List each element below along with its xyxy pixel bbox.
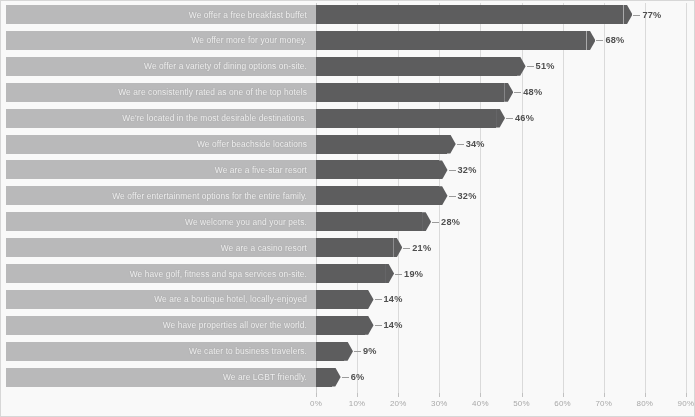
value-bar [316,316,365,335]
value-leader-line [395,274,402,275]
horizontal-bar-chart: 0%10%20%30%40%50%60%70%80%90% We offer a… [0,0,695,417]
value-label: 19% [404,269,423,279]
value-leader-line [342,377,349,378]
category-label-bar: We have golf, fitness and spa services o… [6,264,316,283]
x-tick-mark [645,393,646,397]
bar-arrow-tip [447,135,456,154]
category-label: We offer entertainment options for the e… [112,191,307,201]
category-label: We offer beachside locations [197,139,307,149]
category-label-bar: We offer beachside locations [6,135,316,154]
value-leader-line [633,15,640,16]
x-axis-tick-label: 90% [678,399,695,408]
value-bar [316,368,332,387]
category-label-bar: We are consistently rated as one of the … [6,83,316,102]
value-bar [316,57,517,76]
value-leader-line [506,118,513,119]
category-label: We're located in the most desirable dest… [122,113,307,123]
category-label-bar: We are a casino resort [6,238,316,257]
chart-row: We're located in the most desirable dest… [1,109,695,128]
value-bar [316,31,586,50]
value-bar [316,186,439,205]
category-label: We cater to business travelers. [189,346,307,356]
category-label-bar: We're located in the most desirable dest… [6,109,316,128]
x-axis-tick-label: 0% [310,399,322,408]
value-bar [316,238,393,257]
bar-arrow-tip [517,57,526,76]
chart-row: We are a five-star resort32% [1,160,695,179]
chart-row: We have golf, fitness and spa services o… [1,264,695,283]
value-bar [316,160,439,179]
category-label: We are a casino resort [221,243,307,253]
chart-row: We offer more for your money.68% [1,31,695,50]
x-tick-mark [686,393,687,397]
x-tick-mark [398,393,399,397]
bar-arrow-tip [623,5,632,24]
value-label: 32% [458,165,477,175]
bar-arrow-tip [385,264,394,283]
category-label-bar: We offer a variety of dining options on-… [6,57,316,76]
bar-arrow-tip [439,160,448,179]
category-label-bar: We are a boutique hotel, locally-enjoyed [6,290,316,309]
chart-row: We offer a free breakfast buffet77% [1,5,695,24]
category-label-bar: We have properties all over the world. [6,316,316,335]
chart-row: We have properties all over the world.14… [1,316,695,335]
value-bar [316,135,447,154]
category-label-bar: We offer more for your money. [6,31,316,50]
bar-arrow-tip [344,342,353,361]
value-label: 51% [536,61,555,71]
category-label: We are LGBT friendly. [223,372,307,382]
bar-arrow-tip [422,212,431,231]
bar-arrow-tip [439,186,448,205]
category-label: We have properties all over the world. [163,320,307,330]
x-tick-mark [480,393,481,397]
bar-arrow-tip [365,290,374,309]
category-label: We have golf, fitness and spa services o… [130,269,307,279]
value-label: 14% [384,320,403,330]
bar-arrow-tip [332,368,341,387]
value-bar [316,290,365,309]
category-label: We offer a variety of dining options on-… [144,61,307,71]
value-label: 77% [642,10,661,20]
value-leader-line [457,144,464,145]
category-label: We offer a free breakfast buffet [189,10,307,20]
x-tick-mark [439,393,440,397]
chart-row: We welcome you and your pets.28% [1,212,695,231]
category-label: We are a five-star resort [215,165,307,175]
value-label: 6% [351,372,365,382]
category-label-bar: We cater to business travelers. [6,342,316,361]
chart-row: We are LGBT friendly.6% [1,368,695,387]
value-leader-line [449,170,456,171]
value-leader-line [375,325,382,326]
bar-arrow-tip [586,31,595,50]
x-tick-mark [522,393,523,397]
value-leader-line [514,92,521,93]
category-label: We offer more for your money. [191,35,307,45]
category-label-bar: We are a five-star resort [6,160,316,179]
x-axis-tick-label: 30% [431,399,448,408]
bar-arrow-tip [496,109,505,128]
x-tick-mark [604,393,605,397]
value-leader-line [375,299,382,300]
category-label-bar: We offer entertainment options for the e… [6,186,316,205]
value-bar [316,83,504,102]
value-label: 21% [412,243,431,253]
x-tick-mark [316,393,317,397]
chart-plot-area: We offer a free breakfast buffet77%We of… [1,1,695,393]
x-tick-mark [357,393,358,397]
value-label: 9% [363,346,377,356]
category-label: We welcome you and your pets. [185,217,307,227]
category-label-bar: We are LGBT friendly. [6,368,316,387]
x-axis-tick-label: 60% [554,399,571,408]
value-leader-line [432,222,439,223]
value-label: 14% [384,294,403,304]
value-bar [316,212,422,231]
x-axis-tick-label: 10% [349,399,366,408]
x-axis-tick-label: 20% [390,399,407,408]
value-label: 46% [515,113,534,123]
value-leader-line [527,66,534,67]
value-label: 32% [458,191,477,201]
x-axis-tick-label: 80% [636,399,653,408]
chart-row: We are a casino resort21% [1,238,695,257]
category-label-bar: We welcome you and your pets. [6,212,316,231]
value-label: 48% [523,87,542,97]
